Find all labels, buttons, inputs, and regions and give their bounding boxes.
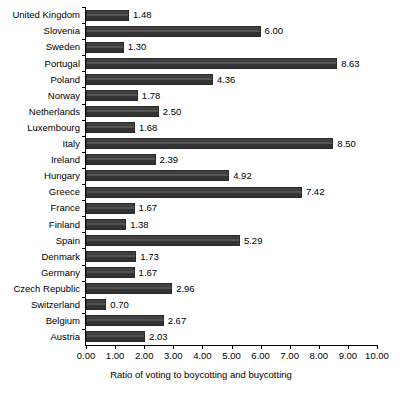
bar-row: Norway1.78 xyxy=(86,87,377,103)
bar-value-label: 0.70 xyxy=(110,300,129,310)
x-axis-tick-label: 1.00 xyxy=(106,351,125,361)
y-axis-tick xyxy=(82,313,86,314)
x-axis-tick-label: 6.00 xyxy=(251,351,270,361)
x-axis-tick-label: 8.00 xyxy=(310,351,329,361)
y-axis-tick xyxy=(82,23,86,24)
bar xyxy=(86,10,129,21)
bar-row: Spain5.29 xyxy=(86,232,377,248)
bar-row: Luxembourg1.68 xyxy=(86,120,377,136)
y-axis-tick xyxy=(82,168,86,169)
bar-value-label: 1.67 xyxy=(139,268,158,278)
category-label: Norway xyxy=(48,91,80,101)
y-axis-tick xyxy=(82,297,86,298)
y-axis-tick xyxy=(82,7,86,8)
bar xyxy=(86,138,333,149)
x-axis-tick xyxy=(144,345,145,349)
y-axis-tick xyxy=(82,55,86,56)
bar xyxy=(86,90,138,101)
bar-row: Sweden1.30 xyxy=(86,39,377,55)
bar xyxy=(86,74,213,85)
x-axis-tick-label: 3.00 xyxy=(164,351,183,361)
x-axis-tick xyxy=(173,345,174,349)
x-axis-tick xyxy=(115,345,116,349)
y-axis-tick xyxy=(82,281,86,282)
category-label: Hungary xyxy=(44,171,80,181)
category-label: Slovenia xyxy=(44,26,80,36)
bar xyxy=(86,154,156,165)
bar-value-label: 1.67 xyxy=(139,203,158,213)
x-axis-tick-label: 5.00 xyxy=(222,351,241,361)
x-axis-tick xyxy=(202,345,203,349)
bar-value-label: 4.36 xyxy=(217,75,236,85)
y-axis-tick xyxy=(82,184,86,185)
category-label: Poland xyxy=(50,75,80,85)
bar-row: Austria2.03 xyxy=(86,329,377,345)
category-label: Portugal xyxy=(45,59,80,69)
plot-area: United Kingdom1.48Slovenia6.00Sweden1.30… xyxy=(86,7,377,345)
bar xyxy=(86,251,136,262)
bar xyxy=(86,106,159,117)
category-label: Czech Republic xyxy=(13,284,80,294)
category-label: Finland xyxy=(49,220,80,230)
bar xyxy=(86,42,124,53)
bar xyxy=(86,267,135,278)
bar xyxy=(86,26,261,37)
bar-chart: United Kingdom1.48Slovenia6.00Sweden1.30… xyxy=(0,0,402,393)
x-axis-tick xyxy=(232,345,233,349)
bar xyxy=(86,187,302,198)
category-label: Denmark xyxy=(41,252,80,262)
y-axis-tick xyxy=(82,87,86,88)
category-label: United Kingdom xyxy=(12,10,80,20)
y-axis-tick xyxy=(82,329,86,330)
bar xyxy=(86,315,164,326)
x-axis-tick-label: 0.00 xyxy=(77,351,96,361)
bar-row: United Kingdom1.48 xyxy=(86,7,377,23)
bar-value-label: 5.29 xyxy=(244,236,263,246)
bar-value-label: 2.96 xyxy=(176,284,195,294)
bar-value-label: 4.92 xyxy=(233,171,252,181)
bar-row: Denmark1.73 xyxy=(86,248,377,264)
x-axis-tick xyxy=(290,345,291,349)
bar-row: Hungary4.92 xyxy=(86,168,377,184)
bar-row: Belgium2.67 xyxy=(86,313,377,329)
bar-value-label: 1.73 xyxy=(140,252,159,262)
category-label: Luxembourg xyxy=(27,123,80,133)
bar-row: Ireland2.39 xyxy=(86,152,377,168)
y-axis-tick xyxy=(82,71,86,72)
bar-value-label: 1.38 xyxy=(130,220,149,230)
bar-value-label: 1.68 xyxy=(139,123,158,133)
bar xyxy=(86,219,126,230)
bar-value-label: 2.67 xyxy=(168,316,187,326)
x-axis-tick-label: 10.00 xyxy=(365,351,389,361)
bar xyxy=(86,58,337,69)
bar xyxy=(86,299,106,310)
category-label: Germany xyxy=(41,268,80,278)
bar-value-label: 8.50 xyxy=(337,139,356,149)
bar-value-label: 2.50 xyxy=(163,107,182,117)
category-label: Spain xyxy=(56,236,80,246)
bar-value-label: 2.03 xyxy=(149,332,168,342)
y-axis-tick xyxy=(82,200,86,201)
bar xyxy=(86,170,229,181)
bar xyxy=(86,283,172,294)
bar-row: Germany1.67 xyxy=(86,265,377,281)
bar xyxy=(86,331,145,342)
x-axis-tick-label: 9.00 xyxy=(339,351,358,361)
y-axis-tick xyxy=(82,39,86,40)
category-label: Netherlands xyxy=(29,107,80,117)
bar xyxy=(86,235,240,246)
y-axis-tick xyxy=(82,136,86,137)
bar-value-label: 1.48 xyxy=(133,10,152,20)
category-label: Belgium xyxy=(46,316,80,326)
bar-row: Slovenia6.00 xyxy=(86,23,377,39)
x-axis-title: Ratio of voting to boycotting and buycot… xyxy=(0,370,402,380)
bar-value-label: 8.63 xyxy=(341,59,360,69)
bar-row: Czech Republic2.96 xyxy=(86,281,377,297)
bar-value-label: 1.30 xyxy=(128,42,147,52)
bar-value-label: 2.39 xyxy=(160,155,179,165)
category-label: Greece xyxy=(49,187,80,197)
x-axis-tick xyxy=(319,345,320,349)
bar-row: Portugal8.63 xyxy=(86,55,377,71)
bar-value-label: 7.42 xyxy=(306,187,325,197)
category-label: Sweden xyxy=(46,42,80,52)
